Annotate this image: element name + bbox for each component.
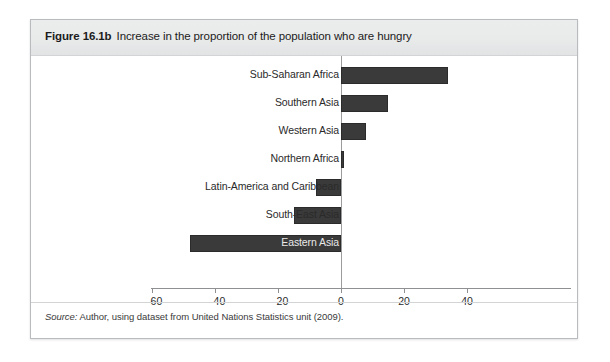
source-note: Source: Author, using dataset from Unite… bbox=[45, 311, 343, 322]
source-body: Author, using dataset from United Nation… bbox=[77, 311, 343, 322]
bar-row: Latin-America and Caribbean bbox=[31, 174, 577, 202]
bar-row: Southern Asia bbox=[31, 90, 577, 118]
bar bbox=[341, 123, 366, 140]
bar-category-label: South-East Asia bbox=[266, 208, 339, 220]
source-divider bbox=[31, 302, 577, 303]
bar-row: Eastern Asia bbox=[31, 230, 577, 258]
bar-category-label: Eastern Asia bbox=[281, 236, 339, 248]
bar bbox=[341, 151, 344, 168]
x-axis-tick-label: 20 bbox=[398, 295, 410, 307]
x-axis-tick-label: – 20 bbox=[268, 295, 288, 307]
bar-category-label: Latin-America and Caribbean bbox=[205, 180, 339, 192]
x-axis-tick bbox=[467, 288, 468, 293]
bar-category-label: Sub-Saharan Africa bbox=[250, 68, 339, 80]
bar-row: South-East Asia bbox=[31, 202, 577, 230]
x-axis-tick bbox=[215, 288, 216, 293]
bar bbox=[341, 95, 388, 112]
bar-category-label: Western Asia bbox=[279, 124, 339, 136]
x-axis-tick-label: – 40 bbox=[205, 295, 225, 307]
figure-caption: Figure 16.1bIncrease in the proportion o… bbox=[45, 30, 412, 42]
bar-chart: Sub-Saharan AfricaSouthern AsiaWestern A… bbox=[31, 56, 577, 302]
bar bbox=[341, 67, 448, 84]
x-axis-tick-label: 0 bbox=[338, 295, 344, 307]
figure-number: Figure 16.1b bbox=[45, 30, 112, 42]
x-axis-tick-label: 40 bbox=[461, 295, 473, 307]
source-label: Source: bbox=[45, 311, 77, 322]
figure-caption-text: Increase in the proportion of the popula… bbox=[117, 30, 412, 42]
x-axis-line bbox=[151, 288, 571, 289]
x-axis-tick bbox=[278, 288, 279, 293]
bar-row: Western Asia bbox=[31, 118, 577, 146]
bar-category-label: Northern Africa bbox=[270, 152, 339, 164]
x-axis-tick bbox=[404, 288, 405, 293]
x-axis-tick-label: – 60 bbox=[142, 295, 162, 307]
bar-row: Northern Africa bbox=[31, 146, 577, 174]
bar-row: Sub-Saharan Africa bbox=[31, 62, 577, 90]
figure-box: Figure 16.1bIncrease in the proportion o… bbox=[30, 19, 578, 339]
x-axis-tick bbox=[341, 288, 342, 293]
bar-category-label: Southern Asia bbox=[275, 96, 339, 108]
x-axis-tick bbox=[152, 288, 153, 293]
